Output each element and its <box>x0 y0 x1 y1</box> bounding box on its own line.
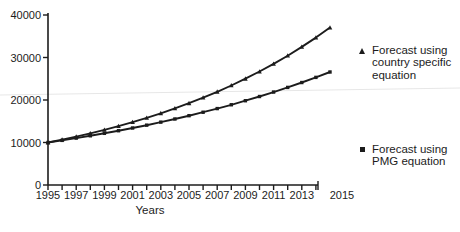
svg-text:2013: 2013 <box>290 189 314 201</box>
svg-text:2005: 2005 <box>177 189 201 201</box>
legend-label-pmg: Forecast using PMG equation <box>372 143 447 168</box>
series-country-specific <box>46 25 333 144</box>
svg-text:20000: 20000 <box>10 94 41 106</box>
svg-text:2011: 2011 <box>262 189 286 201</box>
square-marker-icon <box>360 147 365 152</box>
legend-item-pmg: Forecast using PMG equation <box>359 143 447 168</box>
svg-text:2015: 2015 <box>330 189 354 201</box>
legend-label-country-specific: Forecast using country specific equation <box>372 44 451 81</box>
svg-text:30000: 30000 <box>10 52 41 64</box>
svg-text:2001: 2001 <box>120 189 144 201</box>
x-axis-labels: 1995199719992001200320052007200920112013… <box>36 189 354 201</box>
triangle-marker-icon <box>359 48 365 54</box>
svg-text:1995: 1995 <box>36 189 60 201</box>
forecast-chart-figure: 0100002000030000400001995199719992001200… <box>0 0 460 232</box>
x-axis-title: Years <box>104 204 196 216</box>
svg-text:1999: 1999 <box>92 189 116 201</box>
svg-text:2007: 2007 <box>205 189 229 201</box>
legend-item-country-specific: Forecast using country specific equation <box>359 44 451 81</box>
svg-text:40000: 40000 <box>10 9 41 21</box>
svg-text:1997: 1997 <box>64 189 88 201</box>
y-axis-ticks: 010000200003000040000 <box>10 9 48 191</box>
svg-text:2009: 2009 <box>233 189 257 201</box>
svg-text:10000: 10000 <box>10 137 41 149</box>
legend: Forecast using country specific equation… <box>359 0 459 232</box>
svg-text:2003: 2003 <box>149 189 173 201</box>
